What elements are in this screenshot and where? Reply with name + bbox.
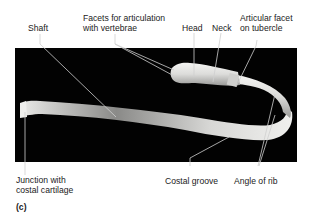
rib-sternal-end [20, 101, 27, 118]
rib-shaft [22, 101, 292, 141]
label-facets-line1: Facets for articulation [83, 13, 165, 23]
label-articular-facet-line2: on tubercle [240, 23, 283, 33]
label-facets-line2: with vertebrae [83, 23, 137, 33]
leader-angle-b [259, 115, 275, 166]
label-junction-line2: costal cartilage [16, 185, 73, 195]
label-neck: Neck [212, 23, 232, 33]
rib-angle [232, 75, 291, 118]
label-articular-facet-line1: Articular facet [240, 13, 293, 23]
label-angle-of-rib: Angle of rib [234, 176, 277, 186]
leader-costal-groove [190, 137, 229, 166]
label-head: Head [182, 23, 203, 33]
label-junction-line1: Junction with [16, 175, 66, 185]
label-costal-groove: Costal groove [165, 176, 218, 186]
leader-facets-a [115, 34, 174, 70]
label-shaft: Shaft [28, 23, 48, 33]
leader-facets-b [115, 44, 174, 76]
figure-letter: (c) [16, 202, 27, 212]
